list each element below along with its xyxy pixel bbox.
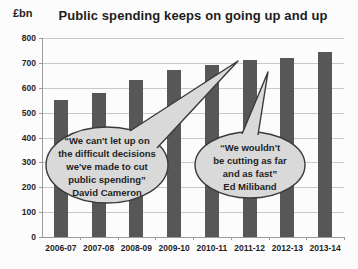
x-tick-label: 2011-12 bbox=[234, 243, 265, 253]
x-tick-label: 2013-14 bbox=[310, 243, 341, 253]
x-tick-label: 2012-13 bbox=[272, 243, 303, 253]
y-tick-label: 100 bbox=[22, 207, 36, 217]
y-tick-label: 500 bbox=[22, 108, 36, 118]
bar-chart-plot: 01002003004005006007008002006-072007-082… bbox=[0, 0, 358, 269]
x-tick-label: 2008-09 bbox=[121, 243, 152, 253]
y-tick-label: 200 bbox=[22, 182, 36, 192]
x-tick-label: 2010-11 bbox=[197, 243, 228, 253]
y-tick-label: 700 bbox=[22, 58, 36, 68]
x-tick-label: 2007-08 bbox=[83, 243, 114, 253]
y-tick-label: 400 bbox=[22, 133, 36, 143]
speech-bubble-text-cameron: “We can't let up onthe difficult decisio… bbox=[58, 135, 156, 198]
x-tick-label: 2009-10 bbox=[159, 243, 190, 253]
bar-2013-14 bbox=[318, 52, 332, 237]
bar-2009-10 bbox=[167, 70, 181, 237]
y-tick-label: 0 bbox=[31, 232, 36, 242]
y-tick-label: 300 bbox=[22, 157, 36, 167]
x-tick-label: 2006-07 bbox=[45, 243, 76, 253]
chart-canvas: £bn Public spending keeps on going up an… bbox=[0, 0, 358, 269]
y-tick-label: 600 bbox=[22, 83, 36, 93]
y-tick-label: 800 bbox=[22, 33, 36, 43]
